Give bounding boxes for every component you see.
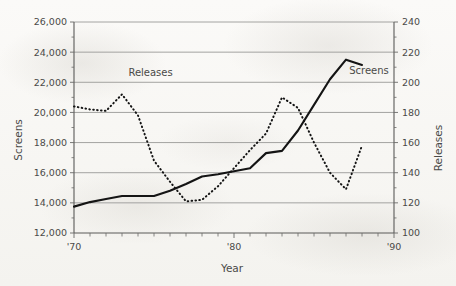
svg-text:26,000: 26,000 — [34, 16, 67, 27]
svg-text:200: 200 — [402, 77, 420, 88]
svg-text:180: 180 — [402, 107, 420, 118]
gridlines — [74, 22, 394, 203]
right-axis-tick-labels: 100120140160180200220240 — [402, 16, 420, 238]
svg-text:100: 100 — [402, 227, 420, 238]
chart-svg: 12,00014,00016,00018,00020,00022,00024,0… — [0, 0, 456, 286]
svg-text:'70: '70 — [67, 241, 82, 252]
svg-text:16,000: 16,000 — [34, 167, 67, 178]
series-label-screens: Screens — [349, 65, 389, 76]
svg-text:24,000: 24,000 — [34, 47, 67, 58]
dual-axis-line-chart: 12,00014,00016,00018,00020,00022,00024,0… — [0, 0, 456, 286]
left-axis-ticks — [70, 22, 74, 233]
x-axis-title: Year — [220, 262, 244, 274]
svg-text:14,000: 14,000 — [34, 197, 67, 208]
x-axis-tick-labels: '70'80'90 — [67, 241, 402, 252]
svg-text:18,000: 18,000 — [34, 137, 67, 148]
svg-text:'80: '80 — [227, 241, 242, 252]
svg-text:220: 220 — [402, 47, 420, 58]
svg-text:22,000: 22,000 — [34, 77, 67, 88]
series-label-releases: Releases — [128, 67, 172, 78]
svg-text:20,000: 20,000 — [34, 107, 67, 118]
svg-text:160: 160 — [402, 137, 420, 148]
left-axis-tick-labels: 12,00014,00016,00018,00020,00022,00024,0… — [34, 16, 67, 238]
series-line-releases — [74, 94, 362, 201]
series-line-screens — [74, 60, 362, 207]
svg-text:240: 240 — [402, 16, 420, 27]
y2-axis-title: Releases — [432, 125, 444, 172]
svg-text:12,000: 12,000 — [34, 227, 67, 238]
x-axis-ticks — [74, 233, 394, 238]
right-axis-ticks — [394, 22, 398, 233]
svg-text:'90: '90 — [387, 241, 402, 252]
y-axis-title: Screens — [12, 119, 24, 161]
svg-text:140: 140 — [402, 167, 420, 178]
svg-text:120: 120 — [402, 197, 420, 208]
